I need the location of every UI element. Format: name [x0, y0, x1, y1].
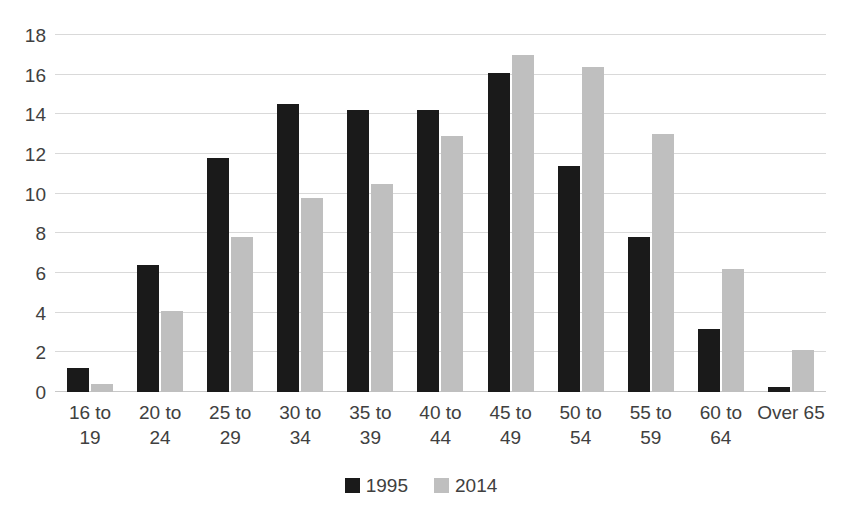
- legend-swatch-icon: [434, 478, 449, 493]
- x-axis-tick-line2: 59: [616, 425, 686, 450]
- bar-2014-20-to-24[interactable]: [161, 311, 183, 392]
- x-axis-tick-label: 20 to24: [125, 400, 195, 450]
- x-axis-tick-line1: 30 to: [279, 402, 321, 423]
- x-axis-tick-label: 60 to64: [686, 400, 756, 450]
- plot-area: [55, 28, 826, 399]
- bar-1995-40-to-44[interactable]: [417, 110, 439, 392]
- x-axis-tick-line1: 45 to: [489, 402, 531, 423]
- chart-legend: 19952014: [0, 470, 842, 500]
- legend-label: 2014: [455, 476, 497, 495]
- y-axis-tick-label: 6: [0, 264, 46, 283]
- x-axis-tick-line1: 60 to: [700, 402, 742, 423]
- x-axis-tick-label: 30 to34: [265, 400, 335, 450]
- bar-1995-Over-65[interactable]: [768, 387, 790, 392]
- x-axis-tick-label: 35 to39: [335, 400, 405, 450]
- bar-1995-50-to-54[interactable]: [558, 166, 580, 392]
- bar-2014-40-to-44[interactable]: [441, 136, 463, 392]
- bar-group: [265, 28, 335, 392]
- x-axis-tick-line2: 34: [265, 425, 335, 450]
- bar-2014-35-to-39[interactable]: [371, 184, 393, 392]
- y-axis-tick-label: 16: [0, 65, 46, 84]
- legend-item-1995[interactable]: 1995: [345, 476, 408, 495]
- bar-group: [476, 28, 546, 392]
- bar-2014-55-to-59[interactable]: [652, 134, 674, 392]
- y-axis-tick-label: 4: [0, 303, 46, 322]
- x-axis-tick-line1: 20 to: [139, 402, 181, 423]
- bar-1995-60-to-64[interactable]: [698, 329, 720, 392]
- y-axis-tick-label: 8: [0, 224, 46, 243]
- bar-2014-30-to-34[interactable]: [301, 198, 323, 392]
- x-axis-tick-line2: 39: [335, 425, 405, 450]
- bar-2014-16-to-19[interactable]: [91, 384, 113, 392]
- bar-group: [616, 28, 686, 392]
- x-axis-tick-label: 45 to49: [476, 400, 546, 450]
- y-axis-tick-label: 14: [0, 105, 46, 124]
- bar-1995-30-to-34[interactable]: [277, 104, 299, 392]
- y-axis-tick-label: 10: [0, 184, 46, 203]
- y-axis-tick-label: 0: [0, 383, 46, 402]
- x-axis-tick-line1: Over 65: [757, 402, 825, 423]
- bar-group: [195, 28, 265, 392]
- x-axis-tick-line2: 54: [546, 425, 616, 450]
- x-axis-tick-line2: 64: [686, 425, 756, 450]
- bars-layer: [55, 28, 826, 399]
- bar-1995-35-to-39[interactable]: [347, 110, 369, 392]
- x-axis-tick-line2: 44: [405, 425, 475, 450]
- x-axis-tick-label: 40 to44: [405, 400, 475, 450]
- bar-group: [125, 28, 195, 392]
- bar-group: [335, 28, 405, 392]
- bar-1995-16-to-19[interactable]: [67, 368, 89, 392]
- bar-1995-20-to-24[interactable]: [137, 265, 159, 392]
- bar-1995-55-to-59[interactable]: [628, 237, 650, 392]
- x-axis-tick-label: 50 to54: [546, 400, 616, 450]
- x-axis-tick-line1: 40 to: [419, 402, 461, 423]
- x-axis-tick-label: 55 to59: [616, 400, 686, 450]
- x-axis: 16 to1920 to2425 to2930 to3435 to3940 to…: [55, 400, 826, 458]
- x-axis-tick-line2: 49: [476, 425, 546, 450]
- bar-2014-25-to-29[interactable]: [231, 237, 253, 392]
- x-axis-tick-line2: 29: [195, 425, 265, 450]
- bar-group: [756, 28, 826, 392]
- x-axis-tick-line1: 50 to: [560, 402, 602, 423]
- bar-2014-45-to-49[interactable]: [512, 55, 534, 392]
- bar-2014-50-to-54[interactable]: [582, 67, 604, 392]
- y-axis-tick-label: 18: [0, 26, 46, 45]
- bar-group: [546, 28, 616, 392]
- x-axis-tick-label: 25 to29: [195, 400, 265, 450]
- x-axis-tick-line2: 24: [125, 425, 195, 450]
- x-axis-tick-line1: 35 to: [349, 402, 391, 423]
- x-axis-tick-label: 16 to19: [55, 400, 125, 450]
- legend-label: 1995: [366, 476, 408, 495]
- y-axis: 181614121086420: [0, 28, 46, 399]
- y-axis-tick-label: 12: [0, 145, 46, 164]
- bar-2014-Over-65[interactable]: [792, 350, 814, 392]
- y-axis-tick-label: 2: [0, 343, 46, 362]
- legend-swatch-icon: [345, 478, 360, 493]
- bar-group: [55, 28, 125, 392]
- x-axis-tick-line1: 16 to: [69, 402, 111, 423]
- bar-1995-45-to-49[interactable]: [488, 73, 510, 392]
- bar-group: [686, 28, 756, 392]
- x-axis-tick-line1: 55 to: [630, 402, 672, 423]
- legend-item-2014[interactable]: 2014: [434, 476, 497, 495]
- bar-2014-60-to-64[interactable]: [722, 269, 744, 392]
- x-axis-tick-line2: 19: [55, 425, 125, 450]
- x-axis-tick-label: Over 65: [756, 400, 826, 425]
- bar-group: [405, 28, 475, 392]
- grouped-bar-chart: 181614121086420 16 to1920 to2425 to2930 …: [0, 0, 842, 521]
- bar-1995-25-to-29[interactable]: [207, 158, 229, 392]
- x-axis-tick-line1: 25 to: [209, 402, 251, 423]
